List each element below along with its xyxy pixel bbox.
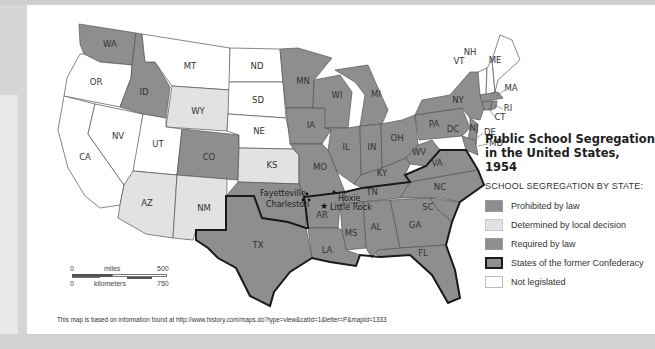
label-ny: NY — [452, 95, 464, 105]
legend-item-required: Required by law — [485, 234, 655, 253]
state-fl — [368, 245, 460, 303]
city-label-little-rock: Little Rock — [330, 203, 372, 212]
scale-zero-miles: 0 — [70, 265, 74, 272]
swatch-required — [485, 238, 503, 250]
scale-max-km: 750 — [157, 280, 169, 287]
label-az: AZ — [141, 198, 153, 208]
label-mn: MN — [296, 76, 310, 86]
label-id: ID — [139, 87, 149, 97]
scale-bar: 0 miles 500 0 kilometers 750 — [72, 265, 172, 290]
label-al: AL — [371, 222, 382, 232]
label-tn: TN — [365, 187, 378, 197]
label-la: LA — [322, 245, 333, 255]
city-label-charleston: Charleston — [266, 200, 309, 209]
swatch-confederacy — [485, 257, 503, 269]
legend-item-prohibited: Prohibited by law — [485, 196, 655, 215]
scale-km-label: kilometers — [94, 280, 126, 287]
scale-bar-km-dark — [127, 277, 152, 279]
legend-label: Required by law — [511, 239, 576, 249]
city-label-hoxie: Hoxie — [338, 194, 361, 203]
state-vt — [478, 68, 487, 95]
label-ne: NE — [253, 126, 265, 136]
label-il: IL — [342, 142, 350, 152]
label-ma: MA — [504, 83, 517, 93]
label-me: ME — [489, 55, 502, 65]
swatch-prohibited — [485, 200, 503, 212]
label-mi: MI — [371, 89, 381, 99]
legend-label: Determined by local decision — [511, 220, 626, 230]
swatch-not-legislated — [485, 276, 503, 288]
label-va: VA — [431, 158, 442, 168]
label-fl: FL — [418, 248, 428, 258]
label-wi: WI — [332, 90, 343, 100]
label-vt: VT — [453, 56, 465, 66]
legend-heading: SCHOOL SEGREGATION BY STATE: — [485, 181, 655, 191]
legend-item-local-decision: Determined by local decision — [485, 215, 655, 234]
label-wv: WV — [412, 147, 426, 157]
label-ga: GA — [409, 220, 422, 230]
label-oh: OH — [390, 133, 403, 143]
city-marker-fayetteville — [306, 193, 309, 196]
legend-title-line-1: Public School Segregation — [485, 132, 655, 146]
legend-label: Prohibited by law — [511, 201, 580, 211]
legend-label: Not legislated — [511, 277, 566, 287]
star-icon: ★ — [320, 201, 328, 211]
legend-item-not-legislated: Not legislated — [485, 272, 655, 291]
label-sc: SC — [422, 202, 433, 212]
label-ky: KY — [377, 168, 388, 178]
label-ct: CT — [494, 112, 506, 122]
label-mo: MO — [313, 162, 327, 172]
label-dc: DC — [447, 124, 460, 134]
legend-item-confederacy: States of the former Confederacy — [485, 253, 655, 272]
city-marker-hoxie — [333, 191, 336, 194]
label-nm: NM — [197, 203, 211, 213]
label-ri: RI — [504, 103, 512, 113]
scale-miles-label: miles — [104, 265, 120, 272]
scale-max-miles: 500 — [157, 265, 169, 272]
source-note: This map is based on information found a… — [57, 316, 387, 323]
city-label-fayetteville: Fayetteville — [260, 189, 306, 198]
label-wy: WY — [191, 106, 205, 116]
label-ar: AR — [316, 210, 328, 220]
swatch-local-decision — [485, 219, 503, 231]
label-sd: SD — [252, 95, 264, 105]
map-legend: Public School Segregation in the United … — [485, 132, 655, 291]
label-ca: CA — [79, 152, 91, 162]
label-co: CO — [203, 152, 216, 162]
label-ut: UT — [152, 139, 164, 149]
legend-label: States of the former Confederacy — [511, 258, 644, 268]
label-mt: MT — [184, 61, 197, 71]
label-ks: KS — [267, 160, 278, 170]
label-nv: NV — [112, 131, 124, 141]
label-or: OR — [90, 77, 103, 87]
label-nh: NH — [464, 47, 477, 57]
label-tx: TX — [251, 240, 263, 250]
label-nj: NJ — [470, 123, 479, 133]
label-pa: PA — [429, 119, 440, 129]
label-nd: ND — [251, 61, 264, 71]
legend-title-line-2: in the United States, 1954 — [485, 146, 655, 174]
label-wa: WA — [103, 39, 117, 49]
label-in: IN — [368, 142, 377, 152]
label-ia: IA — [307, 120, 316, 130]
scale-zero-km: 0 — [70, 280, 74, 287]
label-nc: NC — [434, 182, 446, 192]
label-ms: MS — [345, 228, 358, 238]
state-ct — [482, 101, 492, 110]
